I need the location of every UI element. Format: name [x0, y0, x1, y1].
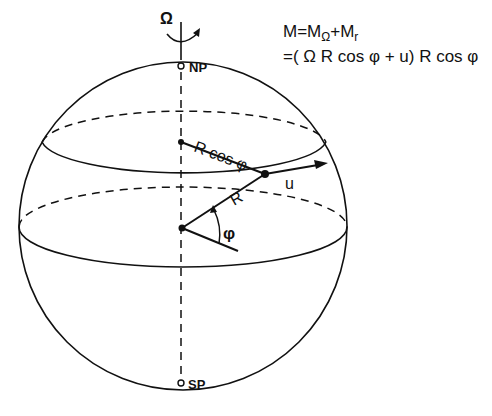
latitude-circle-front [42, 142, 326, 173]
eq-sub-omega: Ω [321, 30, 330, 44]
earth-center-dot [179, 225, 186, 232]
equation-line-2: =( Ω R cos φ + u) R cos φ [283, 47, 478, 67]
eq-m-r: +M [330, 22, 354, 41]
r-cos-phi-label: R cos φ [192, 138, 250, 174]
latitude-circle-back [42, 111, 326, 142]
equator-back [19, 187, 347, 227]
south-pole-label: SP [188, 377, 206, 392]
equation-line-1: M=MΩ+Mr [283, 22, 358, 44]
radius-line [182, 174, 265, 228]
north-pole-label: NP [189, 60, 207, 75]
u-label: u [285, 175, 294, 192]
omega-label: Ω [160, 10, 173, 27]
rotation-arrow-icon [167, 28, 200, 42]
r-label: R [227, 188, 246, 209]
phi-label: φ [223, 224, 235, 243]
north-pole-marker [178, 63, 184, 69]
eq-sub-r: r [354, 30, 358, 44]
equator-front [19, 227, 347, 267]
south-pole-marker [178, 380, 184, 386]
eq-m-omega: =M [297, 22, 321, 41]
eq-m: M [283, 22, 297, 41]
phi-angle-arc [214, 210, 220, 244]
u-arrowhead-icon [314, 160, 328, 169]
u-vector [265, 165, 318, 174]
latitude-center-dot [178, 139, 184, 145]
